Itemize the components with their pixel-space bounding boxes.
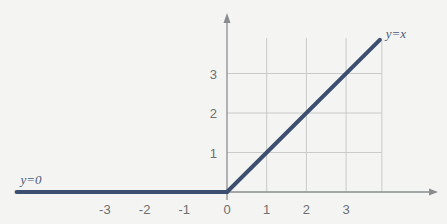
y-tick-label: 2 [210, 106, 217, 121]
relu-chart: -3-2-10123123 y=0y=x [0, 0, 447, 224]
x-tick-label: -1 [179, 202, 191, 217]
x-tick-label: -3 [99, 202, 111, 217]
series-label: y=0 [19, 172, 43, 187]
y-tick-label: 3 [210, 67, 217, 82]
series-label: y=x [384, 26, 407, 41]
x-tick-label: 3 [342, 202, 349, 217]
x-tick-label: 2 [303, 202, 310, 217]
x-tick-label: 0 [223, 202, 230, 217]
x-tick-label: 1 [263, 202, 270, 217]
y-tick-label: 1 [210, 146, 217, 161]
x-tick-label: -2 [139, 202, 151, 217]
